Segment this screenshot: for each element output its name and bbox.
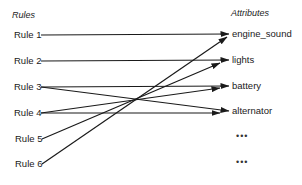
link-rule5-lights bbox=[42, 63, 220, 139]
link-rule1-engine-sound bbox=[41, 34, 229, 35]
link-rule4-battery bbox=[41, 88, 220, 113]
link-arrows bbox=[0, 0, 302, 185]
rules-to-attributes-diagram: Rules Attributes Rule 1 Rule 2 Rule 3 Ru… bbox=[0, 0, 302, 185]
link-rule3-battery bbox=[41, 86, 229, 87]
link-rule6-engine-sound bbox=[42, 37, 227, 164]
link-rule2-lights bbox=[41, 60, 229, 61]
